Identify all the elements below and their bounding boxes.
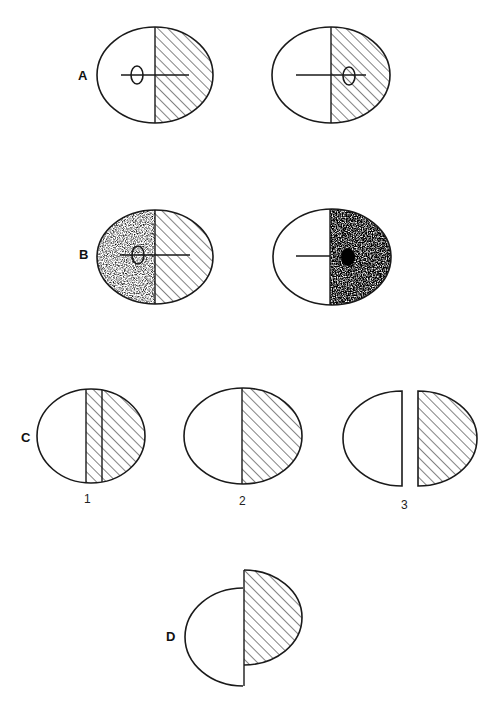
row-label-c: C (21, 430, 31, 445)
egg-d (185, 570, 302, 686)
label-c1: 1 (84, 492, 91, 506)
egg-c3 (343, 391, 477, 486)
egg-a1 (97, 27, 213, 123)
row-label-a: A (78, 68, 88, 83)
egg-b1 (97, 210, 213, 304)
egg-c2 (184, 388, 302, 484)
row-label-d: D (166, 629, 175, 644)
nucleus-icon (341, 248, 355, 266)
label-c3: 3 (401, 498, 408, 512)
egg-c1 (37, 389, 145, 483)
egg-b2 (273, 209, 391, 305)
row-label-b: B (79, 247, 88, 262)
egg-a2 (272, 27, 390, 123)
embryo-diagram: A B C 1 (0, 0, 497, 701)
label-c2: 2 (239, 494, 246, 508)
